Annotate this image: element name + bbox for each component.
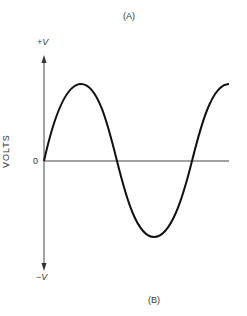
arrow-up-icon <box>42 55 47 63</box>
arrow-down-icon <box>42 263 47 271</box>
sine-wave-diagram <box>0 0 247 316</box>
